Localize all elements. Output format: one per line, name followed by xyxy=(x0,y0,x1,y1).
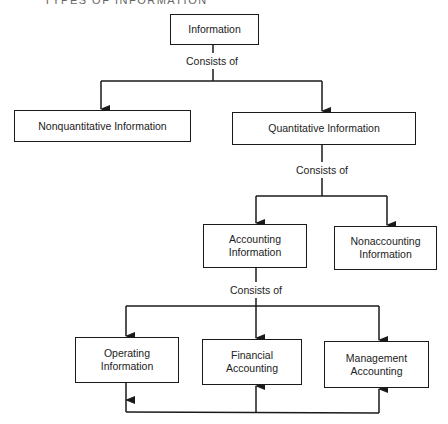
node-nonquantitative-label: Nonquantitative Information xyxy=(38,120,166,133)
node-nonaccounting-information: NonaccountingInformation xyxy=(334,226,437,270)
node-nonquantitative: Nonquantitative Information xyxy=(14,110,191,142)
node-management-line1: Management xyxy=(346,352,407,365)
node-operating-line1: Operating xyxy=(101,347,154,360)
edge-label-consists-2: Consists of xyxy=(294,164,350,176)
node-operating-line2: Information xyxy=(101,360,154,373)
node-management-accounting: ManagementAccounting xyxy=(324,341,429,388)
node-information-label: Information xyxy=(188,23,241,36)
edge-label-consists-3: Consists of xyxy=(228,284,284,296)
node-nonaccounting-line2: Information xyxy=(350,248,420,261)
node-quantitative-label: Quantitative Information xyxy=(268,122,379,135)
node-nonaccounting-line1: Nonaccounting xyxy=(350,235,420,248)
node-accounting-line2: Information xyxy=(229,246,282,259)
node-financial-line2: Accounting xyxy=(226,362,278,375)
node-accounting-line1: Accounting xyxy=(229,233,282,246)
node-accounting-information: AccountingInformation xyxy=(203,224,307,268)
node-operating-information: OperatingInformation xyxy=(75,337,179,383)
node-financial-line1: Financial xyxy=(226,349,278,362)
node-management-line2: Accounting xyxy=(346,365,407,378)
node-quantitative: Quantitative Information xyxy=(232,112,416,145)
node-information: Information xyxy=(170,14,259,45)
node-financial-accounting: FinancialAccounting xyxy=(202,339,302,385)
edge-label-consists-1: Consists of xyxy=(184,55,240,67)
